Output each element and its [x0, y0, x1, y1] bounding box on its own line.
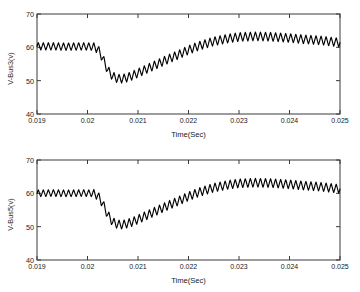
- v-bus5-axes-frame: [37, 160, 340, 260]
- v-bus5-panel: 70 60 50 40 0.019 0.02 0.021 0.022 0.023…: [0, 146, 360, 292]
- xtick-label: 0.024: [281, 263, 299, 270]
- xtick-label: 0.019: [28, 263, 46, 270]
- v-bus5-x-axis-label: Time(Sec): [37, 276, 340, 285]
- xtick-label: 0.019: [28, 117, 46, 124]
- v-bus3-y-axis-label: V-Bus3(v): [6, 37, 15, 101]
- v-bus3-tick-marks: [37, 14, 340, 114]
- v-bus3-plot-svg: [0, 0, 360, 146]
- xtick-label: 0.025: [331, 263, 349, 270]
- v-bus3-axes-frame: [37, 14, 340, 114]
- xtick-label: 0.02: [81, 117, 95, 124]
- v-bus5-tick-marks: [37, 160, 340, 260]
- xtick-label: 0.022: [180, 263, 198, 270]
- v-bus3-waveform: [37, 32, 340, 83]
- xtick-label: 0.023: [230, 117, 248, 124]
- v-bus3-panel: 70 60 50 40 0.019 0.02 0.021 0.022 0.023…: [0, 0, 360, 146]
- ytick-label: 70: [4, 10, 34, 19]
- xtick-label: 0.023: [230, 263, 248, 270]
- v-bus5-y-axis-label: V-Bus5(v): [6, 183, 15, 247]
- xtick-label: 0.022: [180, 117, 198, 124]
- v-bus5-waveform: [37, 178, 340, 229]
- xtick-label: 0.021: [129, 117, 147, 124]
- xtick-label: 0.021: [129, 263, 147, 270]
- ytick-label: 70: [4, 156, 34, 165]
- xtick-label: 0.02: [81, 263, 95, 270]
- v-bus5-plot-svg: [0, 146, 360, 292]
- xtick-label: 0.024: [281, 117, 299, 124]
- figure-voltage-sag-plots: 70 60 50 40 0.019 0.02 0.021 0.022 0.023…: [0, 0, 360, 292]
- v-bus3-x-axis-label: Time(Sec): [37, 130, 340, 139]
- xtick-label: 0.025: [331, 117, 349, 124]
